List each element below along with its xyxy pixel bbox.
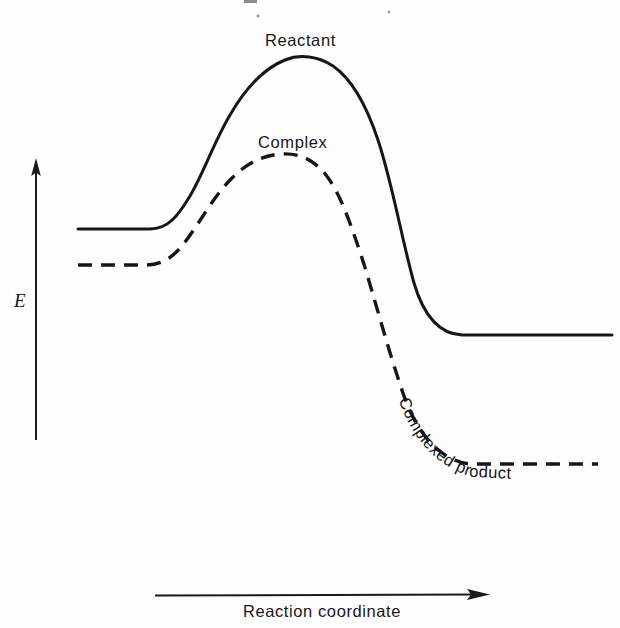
energy-profile-plot: Reactant Complex Complexed product E Rea… — [0, 0, 620, 628]
scan-artifact-top — [244, 0, 257, 3]
curve-reactant — [78, 57, 612, 335]
x-axis — [155, 589, 490, 600]
scan-artifact-dot-right — [388, 11, 390, 13]
label-reactant: Reactant — [265, 31, 336, 49]
label-complexed-product: Complexed product — [396, 395, 512, 482]
label-complex: Complex — [258, 133, 327, 151]
reaction-energy-diagram: Reactant Complex Complexed product E Rea… — [0, 0, 620, 628]
label-y-axis-energy: E — [13, 290, 26, 311]
x-axis-line — [155, 595, 477, 596]
y-axis — [31, 158, 41, 440]
label-x-axis-reaction-coordinate: Reaction coordinate — [243, 602, 401, 620]
curve-complexed-product — [78, 154, 598, 464]
scan-artifact-dot — [257, 15, 260, 18]
